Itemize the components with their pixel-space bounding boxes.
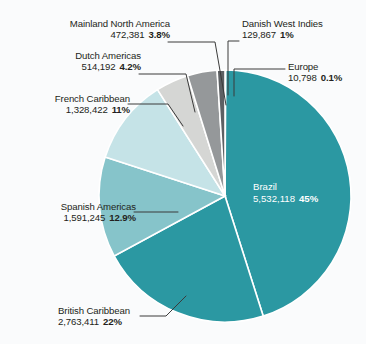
- label-value-french-caribbean: 1,328,422: [66, 104, 108, 115]
- label-french-caribbean: French Caribbean 1,328,42211%: [0, 93, 130, 116]
- label-percent-dutch-americas: 4.2%: [120, 61, 141, 72]
- pie-chart: Mainland North America 472,3813.8% Dutch…: [0, 0, 366, 344]
- label-value-dutch-americas: 514,192: [82, 61, 116, 72]
- label-percent-danish-west-indies: 1%: [280, 29, 294, 40]
- label-values-mainland-north-america: 472,3813.8%: [0, 29, 170, 40]
- label-mainland-north-america: Mainland North America 472,3813.8%: [0, 18, 170, 41]
- label-value-brazil: 5,532,118: [253, 193, 295, 204]
- label-percent-brazil: 45%: [299, 193, 318, 204]
- label-value-europe: 10,798: [288, 72, 317, 83]
- label-percent-french-caribbean: 11%: [112, 104, 130, 115]
- label-values-brazil: 5,532,11845%: [253, 193, 318, 205]
- label-danish-west-indies: Danish West Indies 129,8671%: [242, 18, 366, 41]
- label-percent-mainland-north-america: 3.8%: [149, 29, 170, 40]
- label-brazil: Brazil 5,532,11845%: [253, 181, 318, 205]
- label-dutch-americas: Dutch Americas 514,1924.2%: [0, 50, 141, 73]
- label-name-europe: Europe: [288, 61, 366, 72]
- label-british-caribbean: British Caribbean 2,763,41122%: [58, 305, 168, 328]
- label-value-british-caribbean: 2,763,411: [58, 316, 99, 327]
- label-value-danish-west-indies: 129,867: [242, 29, 276, 40]
- label-name-french-caribbean: French Caribbean: [0, 93, 130, 104]
- label-values-french-caribbean: 1,328,42211%: [0, 104, 130, 115]
- label-values-europe: 10,7980.1%: [288, 72, 366, 83]
- label-values-british-caribbean: 2,763,41122%: [58, 316, 168, 327]
- label-name-spanish-americas: Spanish Americas: [0, 201, 136, 212]
- label-name-danish-west-indies: Danish West Indies: [242, 18, 366, 29]
- label-value-spanish-americas: 1,591,245: [64, 212, 106, 223]
- label-europe: Europe 10,7980.1%: [288, 61, 366, 84]
- label-values-spanish-americas: 1,591,24512.9%: [0, 212, 136, 223]
- label-values-danish-west-indies: 129,8671%: [242, 29, 366, 40]
- label-percent-british-caribbean: 22%: [103, 316, 122, 327]
- label-value-mainland-north-america: 472,381: [111, 29, 145, 40]
- label-percent-europe: 0.1%: [321, 72, 342, 83]
- label-name-mainland-north-america: Mainland North America: [0, 18, 170, 29]
- label-name-british-caribbean: British Caribbean: [58, 305, 168, 316]
- label-percent-spanish-americas: 12.9%: [109, 212, 136, 223]
- label-name-brazil: Brazil: [253, 181, 318, 193]
- label-spanish-americas: Spanish Americas 1,591,24512.9%: [0, 201, 136, 224]
- label-name-dutch-americas: Dutch Americas: [0, 50, 141, 61]
- label-values-dutch-americas: 514,1924.2%: [0, 61, 141, 72]
